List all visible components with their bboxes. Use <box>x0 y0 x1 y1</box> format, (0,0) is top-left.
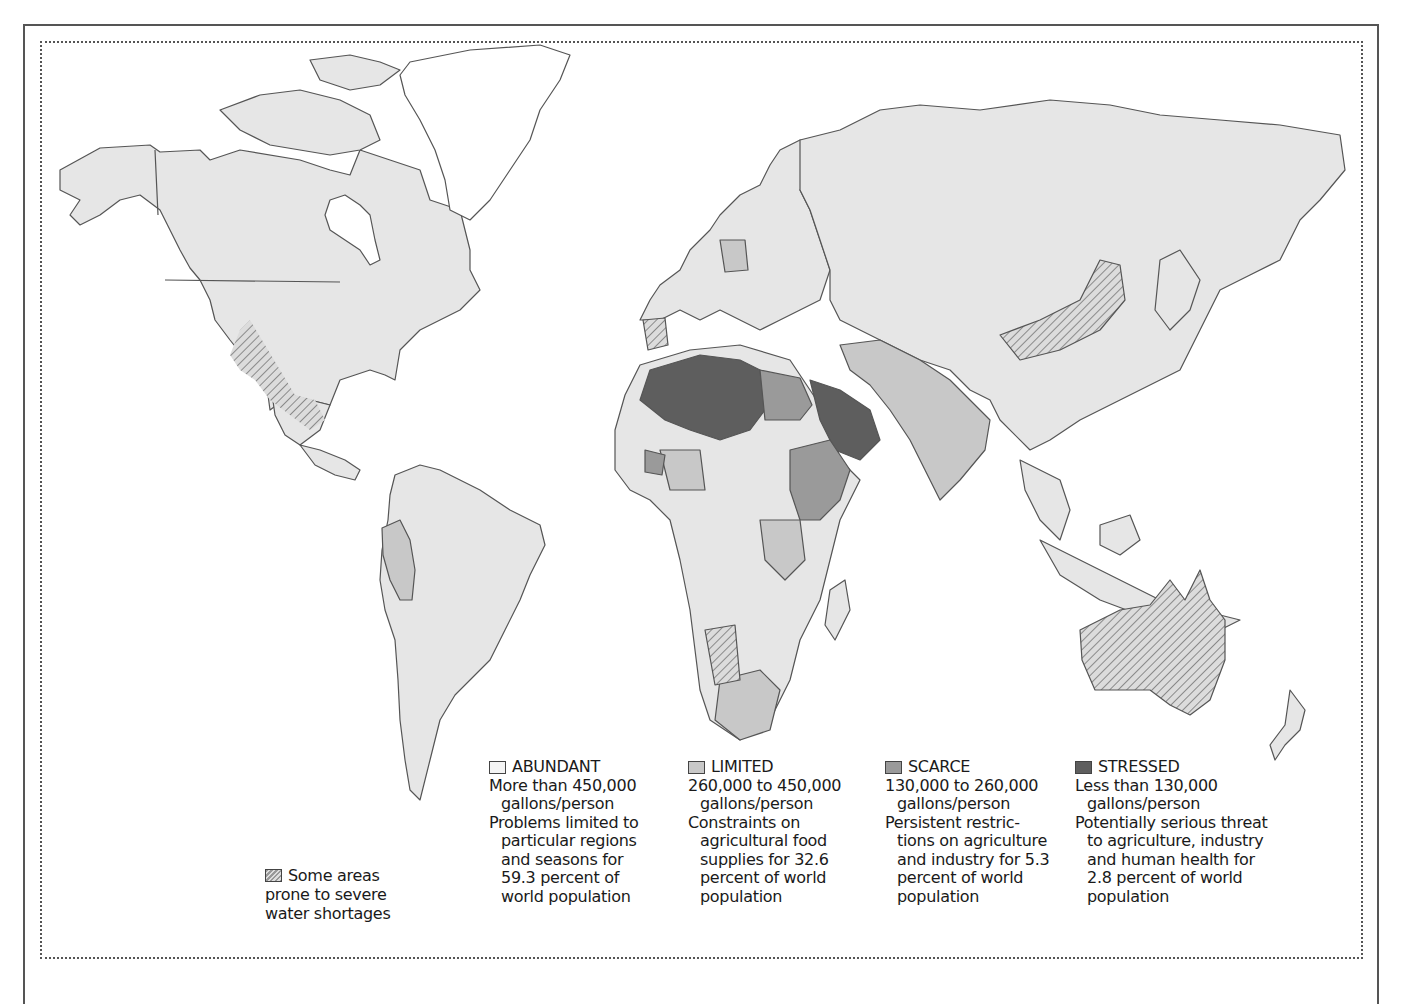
region-north-america <box>60 55 480 480</box>
legend-desc: percent of world <box>885 869 1049 888</box>
stressed-swatch-icon <box>1075 761 1092 774</box>
region-south-america <box>380 465 545 800</box>
legend-desc: Problems limited to <box>489 814 638 833</box>
legend-desc: tions on agriculture <box>885 832 1049 851</box>
region-africa <box>615 345 880 740</box>
legend-range: Less than 130,000 <box>1075 777 1267 796</box>
legend-desc: and industry for 5.3 <box>885 851 1049 870</box>
legend-unit: gallons/person <box>885 795 1049 814</box>
hatch-swatch-icon <box>265 869 282 882</box>
abundant-swatch-icon <box>489 761 506 774</box>
legend-desc: Potentially serious threat <box>1075 814 1267 833</box>
legend-desc: particular regions <box>489 832 638 851</box>
scarce-swatch-icon <box>885 761 902 774</box>
legend-desc: 59.3 percent of <box>489 869 638 888</box>
legend-desc: population <box>885 888 1049 907</box>
legend-desc: population <box>688 888 841 907</box>
legend-label: ABUNDANT <box>512 758 600 777</box>
legend-desc: and seasons for <box>489 851 638 870</box>
legend-desc: 2.8 percent of world <box>1075 869 1267 888</box>
legend-label: STRESSED <box>1098 758 1180 777</box>
legend-hatch-line: water shortages <box>265 904 390 923</box>
legend-unit: gallons/person <box>489 795 638 814</box>
legend-desc: agricultural food <box>688 832 841 851</box>
legend-label: LIMITED <box>711 758 773 777</box>
legend-desc: and human health for <box>1075 851 1267 870</box>
legend-desc: percent of world <box>688 869 841 888</box>
legend-hatch-line: prone to severe <box>265 885 390 904</box>
legend-desc: world population <box>489 888 638 907</box>
legend-label: SCARCE <box>908 758 970 777</box>
legend-unit: gallons/person <box>1075 795 1267 814</box>
legend-hatch-line: Some areas <box>288 866 379 885</box>
legend-range: 130,000 to 260,000 <box>885 777 1049 796</box>
legend-limited: LIMITED 260,000 to 450,000 gallons/perso… <box>688 758 841 906</box>
legend-range: More than 450,000 <box>489 777 638 796</box>
legend-scarce: SCARCE 130,000 to 260,000 gallons/person… <box>885 758 1049 906</box>
legend-hatch: Some areas prone to severe water shortag… <box>265 866 390 923</box>
legend-desc: Constraints on <box>688 814 841 833</box>
legend-range: 260,000 to 450,000 <box>688 777 841 796</box>
legend-stressed: STRESSED Less than 130,000 gallons/perso… <box>1075 758 1267 906</box>
legend-abundant: ABUNDANT More than 450,000 gallons/perso… <box>489 758 638 906</box>
legend-unit: gallons/person <box>688 795 841 814</box>
legend-desc: to agriculture, industry <box>1075 832 1267 851</box>
legend-desc: Persistent restric- <box>885 814 1049 833</box>
region-asia <box>800 100 1345 630</box>
legend-desc: supplies for 32.6 <box>688 851 841 870</box>
legend-desc: population <box>1075 888 1267 907</box>
limited-swatch-icon <box>688 761 705 774</box>
